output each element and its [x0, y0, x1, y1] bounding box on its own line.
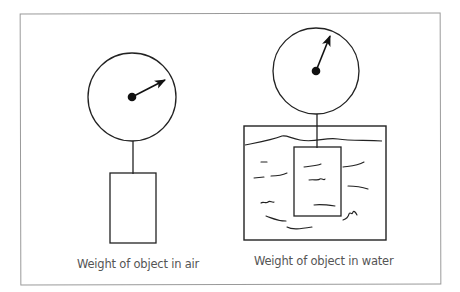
needle-arrow-icon [132, 80, 165, 97]
diagram-canvas [0, 0, 460, 292]
water-surface [245, 136, 382, 145]
water-panel [244, 28, 386, 240]
caption-air: Weight of object in air [77, 257, 199, 271]
needle-arrow-icon [316, 36, 330, 71]
water-ripples [254, 162, 368, 229]
object-block-air [110, 173, 156, 243]
caption-water: Weight of object in water [254, 254, 393, 268]
air-panel [88, 53, 176, 243]
water-tank [244, 126, 386, 240]
